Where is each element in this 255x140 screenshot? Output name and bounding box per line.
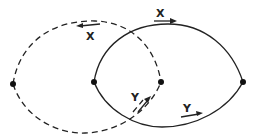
x-label-dashed: X (86, 30, 95, 43)
arrowhead-left-icon (76, 23, 83, 28)
y-label-dashed: Y (130, 91, 140, 104)
x-label-solid: X (156, 7, 165, 20)
arrow-up-right-icon (138, 100, 148, 112)
y-label-solid: Y (182, 102, 192, 115)
arrowhead-up-right-icon (144, 96, 151, 103)
solid-loop-lower-arc (94, 82, 243, 127)
x-arrow-dashed-top (76, 23, 100, 28)
arrowhead-right-icon (170, 18, 177, 24)
arrowhead-right-icon-2 (196, 111, 203, 116)
solid-loop-upper-arc (94, 24, 243, 82)
node-dot-1 (10, 81, 16, 87)
two-loop-diagram: X X Y Y (0, 0, 255, 140)
node-dot-3 (158, 79, 164, 85)
dashed-loop-lower-arc (13, 82, 161, 133)
node-dot-4 (240, 79, 246, 85)
node-dot-2 (91, 79, 97, 85)
